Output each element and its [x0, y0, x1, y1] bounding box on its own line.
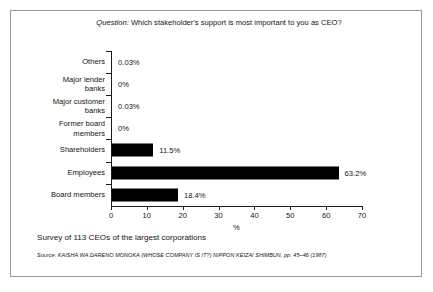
- bar-row: Others0.03%: [11, 51, 423, 73]
- source-citation: KAISHA WA DARENO MONOKA (WHOSE COMPANY I…: [56, 252, 326, 258]
- category-label: Employees: [19, 168, 105, 177]
- bar-row: Board members18.4%: [11, 184, 423, 206]
- figure-frame: Question: Which stakeholder's support is…: [10, 10, 422, 277]
- bar-value-label: 0%: [118, 124, 129, 133]
- source-label: Source:: [37, 252, 56, 258]
- x-axis-tick-label: 40: [250, 211, 258, 220]
- category-tick-mark: [106, 139, 111, 140]
- chart-title-question-prefix: Question:: [96, 18, 129, 27]
- bar: [112, 166, 339, 179]
- category-label: Board members: [19, 190, 105, 199]
- bar-row: Major customerbanks0.03%: [11, 95, 423, 117]
- category-label: Shareholders: [19, 146, 105, 155]
- x-axis-tick-label: 20: [178, 211, 186, 220]
- bar-value-label: 11.5%: [159, 146, 180, 155]
- x-axis-tick-label: 10: [143, 211, 151, 220]
- category-tick-mark: [106, 162, 111, 163]
- bar-value-label: 0.03%: [118, 58, 140, 67]
- bar: [112, 144, 153, 157]
- x-axis-tick-mark: [362, 206, 363, 210]
- survey-note: Survey of 113 CEOs of the largest corpor…: [37, 233, 206, 242]
- category-label: Others: [19, 57, 105, 66]
- bar-value-label: 18.4%: [184, 190, 206, 199]
- x-axis-tick-label: 70: [358, 211, 366, 220]
- value-axis-line: [111, 206, 362, 207]
- category-tick-mark: [106, 117, 111, 118]
- bar-value-label: 63.2%: [345, 168, 367, 177]
- bar: [112, 188, 178, 201]
- category-label: Major customerbanks: [19, 97, 105, 115]
- category-tick-mark: [106, 73, 111, 74]
- category-label: Former boardmembers: [19, 119, 105, 137]
- x-axis-tick-mark: [111, 206, 112, 210]
- x-axis-tick-label: 0: [109, 211, 113, 220]
- source-note: Source: KAISHA WA DARENO MONOKA (WHOSE C…: [37, 252, 327, 258]
- x-axis-tick-label: 30: [214, 211, 222, 220]
- x-axis-tick-mark: [219, 206, 220, 210]
- x-axis-title: %: [111, 223, 362, 232]
- bar-row: Former boardmembers0%: [11, 117, 423, 139]
- bar-row: Employees63.2%: [11, 162, 423, 184]
- bar-value-label: 0.03%: [118, 102, 140, 111]
- category-tick-mark: [106, 95, 111, 96]
- x-axis-tick-mark: [326, 206, 327, 210]
- x-axis-tick-mark: [254, 206, 255, 210]
- category-tick-mark: [106, 184, 111, 185]
- x-axis-tick-label: 50: [286, 211, 294, 220]
- chart-title: Question: Which stakeholder's support is…: [69, 18, 369, 29]
- bar-chart-plot-area: Others0.03%Major lenderbanks0%Major cust…: [11, 47, 423, 217]
- x-axis-tick-label: 60: [322, 211, 330, 220]
- chart-title-text: Which stakeholder's support is most impo…: [129, 18, 342, 27]
- x-axis-tick-mark: [183, 206, 184, 210]
- x-axis-tick-mark: [290, 206, 291, 210]
- bar-row: Major lenderbanks0%: [11, 73, 423, 95]
- bar-row: Shareholders11.5%: [11, 139, 423, 161]
- bar-value-label: 0%: [118, 80, 129, 89]
- category-label: Major lenderbanks: [19, 75, 105, 93]
- x-axis-tick-mark: [147, 206, 148, 210]
- category-tick-mark: [106, 51, 111, 52]
